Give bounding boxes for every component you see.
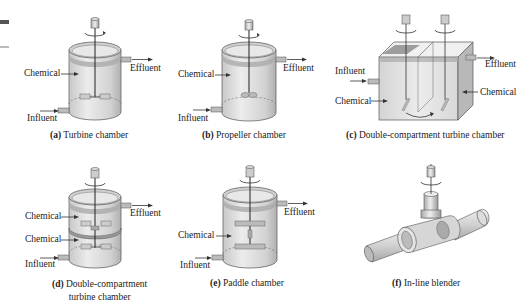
caption-text: In-line blender — [404, 278, 460, 288]
caption-letter: (f) — [392, 278, 402, 288]
chemical-left-label: Chemical — [335, 96, 371, 106]
caption-text: Double-compartment turbine chamber — [359, 130, 505, 140]
panel-in-line-blender: (f) In-line blender — [330, 150, 531, 305]
panel-double-compartment-cylinder: Chemical Chemical Effluent Influent (d) … — [0, 150, 170, 305]
influent-label: Influent — [335, 66, 365, 76]
caption-turbine-chamber: (a) Turbine chamber — [50, 130, 128, 140]
caption-text: Turbine chamber — [63, 130, 128, 140]
chemical-label: Chemical — [178, 69, 214, 79]
caption-text-line2: turbine chamber — [69, 292, 131, 302]
caption-text: Double-compartment — [66, 279, 147, 289]
influent-label: Influent — [178, 113, 208, 123]
influent-label: Influent — [180, 260, 210, 270]
chemical-right-label: Chemical — [480, 87, 516, 97]
caption-letter: (c) — [346, 130, 357, 140]
panel-double-compartment-turbine-chamber: Influent Chemical Chemical Effluent (c) … — [320, 0, 531, 150]
panel-turbine-chamber: Chemical Effluent Influent (a) Turbine c… — [0, 0, 170, 150]
chemical-label: Chemical — [24, 68, 60, 78]
caption-propeller-chamber: (b) Propeller chamber — [202, 130, 286, 140]
caption-in-line-blender: (f) In-line blender — [392, 278, 460, 288]
chemical-label: Chemical — [178, 230, 214, 240]
caption-text: Paddle chamber — [223, 278, 284, 288]
influent-label: Influent — [25, 259, 55, 269]
caption-letter: (d) — [52, 279, 64, 289]
caption-paddle-chamber: (e) Paddle chamber — [210, 278, 284, 288]
panel-paddle-chamber: Chemical Effluent Influent (e) Paddle ch… — [150, 150, 330, 305]
propeller-chamber-illustration — [150, 0, 330, 150]
chemical-bottom-label: Chemical — [25, 234, 61, 244]
caption-letter: (a) — [50, 130, 61, 140]
panel-propeller-chamber: Chemical Effluent Influent (b) Propeller… — [150, 0, 330, 150]
influent-label: Influent — [27, 113, 57, 123]
caption-text: Propeller chamber — [216, 130, 286, 140]
caption-letter: (b) — [202, 130, 214, 140]
caption-double-compartment-turbine-chamber: (c) Double-compartment turbine chamber — [346, 130, 505, 140]
caption-letter: (e) — [210, 278, 221, 288]
chemical-top-label: Chemical — [25, 211, 61, 221]
effluent-label: Effluent — [284, 207, 315, 217]
effluent-label: Effluent — [485, 59, 516, 69]
effluent-label: Effluent — [283, 63, 314, 73]
caption-double-compartment-cylinder: (d) Double-compartment turbine chamber — [52, 278, 147, 304]
